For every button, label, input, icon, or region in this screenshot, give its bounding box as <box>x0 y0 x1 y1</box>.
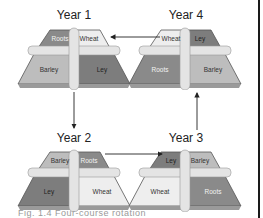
arrows-layer <box>0 0 263 218</box>
figure-caption: Fig. 1.4 Four-course rotation <box>18 208 146 218</box>
